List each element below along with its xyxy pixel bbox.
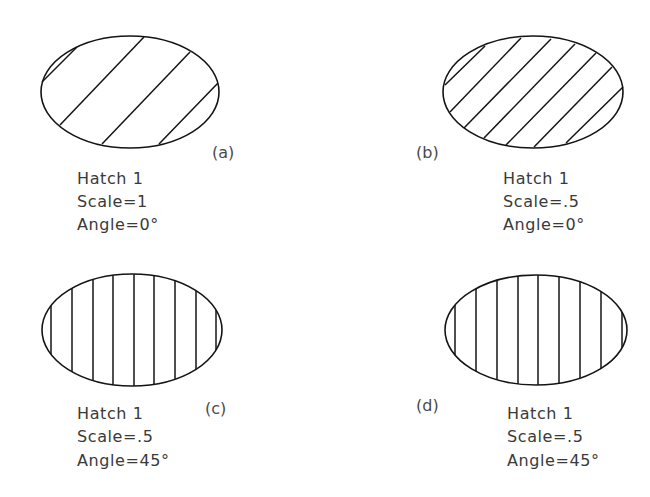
pattern-label-d: Hatch 1	[507, 404, 574, 423]
figure-c: (c) Hatch 1 Scale=.5 Angle=45°	[42, 270, 226, 470]
angle-label-c: Angle=45°	[77, 451, 170, 470]
hatch-lines-d	[455, 270, 622, 390]
angle-label-a: Angle=0°	[77, 215, 159, 234]
ellipse-a	[41, 36, 219, 148]
ellipse-c	[42, 274, 222, 386]
pattern-label-a: Hatch 1	[77, 169, 144, 188]
figure-tag-c: (c)	[205, 399, 226, 418]
ellipse-d	[445, 275, 627, 385]
hatch-lines-b	[445, 38, 623, 147]
pattern-label-b: Hatch 1	[503, 169, 570, 188]
hatch-lines-a	[42, 37, 218, 144]
figure-tag-a: (a)	[212, 143, 234, 162]
figure-b: (b) Hatch 1 Scale=.5 Angle=0°	[416, 36, 623, 234]
figure-tag-b: (b)	[416, 143, 439, 162]
figure-tag-d: (d)	[416, 396, 439, 415]
hatch-figure-diagram: (a) Hatch 1 Scale=1 Angle=0° (b) Hatch 1…	[0, 0, 650, 497]
scale-label-b: Scale=.5	[503, 192, 580, 211]
scale-label-d: Scale=.5	[507, 427, 584, 446]
scale-label-a: Scale=1	[77, 192, 148, 211]
figure-a: (a) Hatch 1 Scale=1 Angle=0°	[41, 36, 234, 234]
angle-label-b: Angle=0°	[503, 215, 585, 234]
figure-d: (d) Hatch 1 Scale=.5 Angle=45°	[416, 270, 627, 470]
angle-label-d: Angle=45°	[507, 451, 600, 470]
scale-label-c: Scale=.5	[77, 427, 154, 446]
pattern-label-c: Hatch 1	[77, 404, 144, 423]
